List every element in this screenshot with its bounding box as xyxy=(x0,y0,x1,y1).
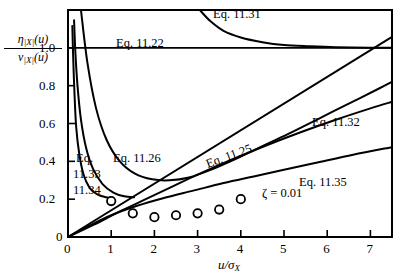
y-tick-label: 0.2 xyxy=(39,192,55,205)
x-tick-label: 0 xyxy=(64,242,71,255)
data-point-marker xyxy=(107,197,115,205)
curve-label-eq1133b: 11.33 xyxy=(73,168,101,181)
y-tick-label: 0 xyxy=(56,230,63,243)
curve-label-eq1135: Eq. 11.35 xyxy=(299,176,347,189)
x-tick-label: 4 xyxy=(237,242,244,255)
y-tick-label: 0.6 xyxy=(39,117,55,130)
curve-label-eq1126: Eq. 11.26 xyxy=(113,152,161,165)
curve-label-eq1134: 11.34 xyxy=(73,184,101,197)
y-tick-label: 0.8 xyxy=(39,79,55,92)
x-tick-label: 1 xyxy=(107,242,114,255)
data-point-marker xyxy=(150,213,158,221)
curve-label-eq1133a: Eq. xyxy=(76,152,93,165)
x-tick-label: 5 xyxy=(280,242,287,255)
y-tick-label: 1.0 xyxy=(39,41,55,54)
data-point-marker xyxy=(172,211,180,219)
curve-label-eq1132: Eq. 11.32 xyxy=(312,116,360,129)
curve-eq-11-25 xyxy=(68,37,392,237)
x-tick-label: 3 xyxy=(194,242,201,255)
curve-label-eq1122: Eq. 11.22 xyxy=(116,37,164,50)
data-point-marker xyxy=(193,209,201,217)
data-point-marker xyxy=(237,195,245,203)
x-axis-label: u/σX xyxy=(218,258,240,273)
x-tick-label: 7 xyxy=(366,242,373,255)
data-point-marker xyxy=(129,209,137,217)
curve-label-eq1131: Eq. 11.31 xyxy=(213,8,261,21)
annotation-damping-ratio: ζ = 0.01 xyxy=(262,187,302,200)
figure-chart: η|X|(u) ν|X|(u) 0123456700.20.40.60.81.0… xyxy=(0,0,410,278)
data-point-marker xyxy=(215,205,223,213)
y-tick-label: 0.4 xyxy=(39,154,55,167)
x-tick-label: 6 xyxy=(323,242,330,255)
x-tick-label: 2 xyxy=(150,242,157,255)
